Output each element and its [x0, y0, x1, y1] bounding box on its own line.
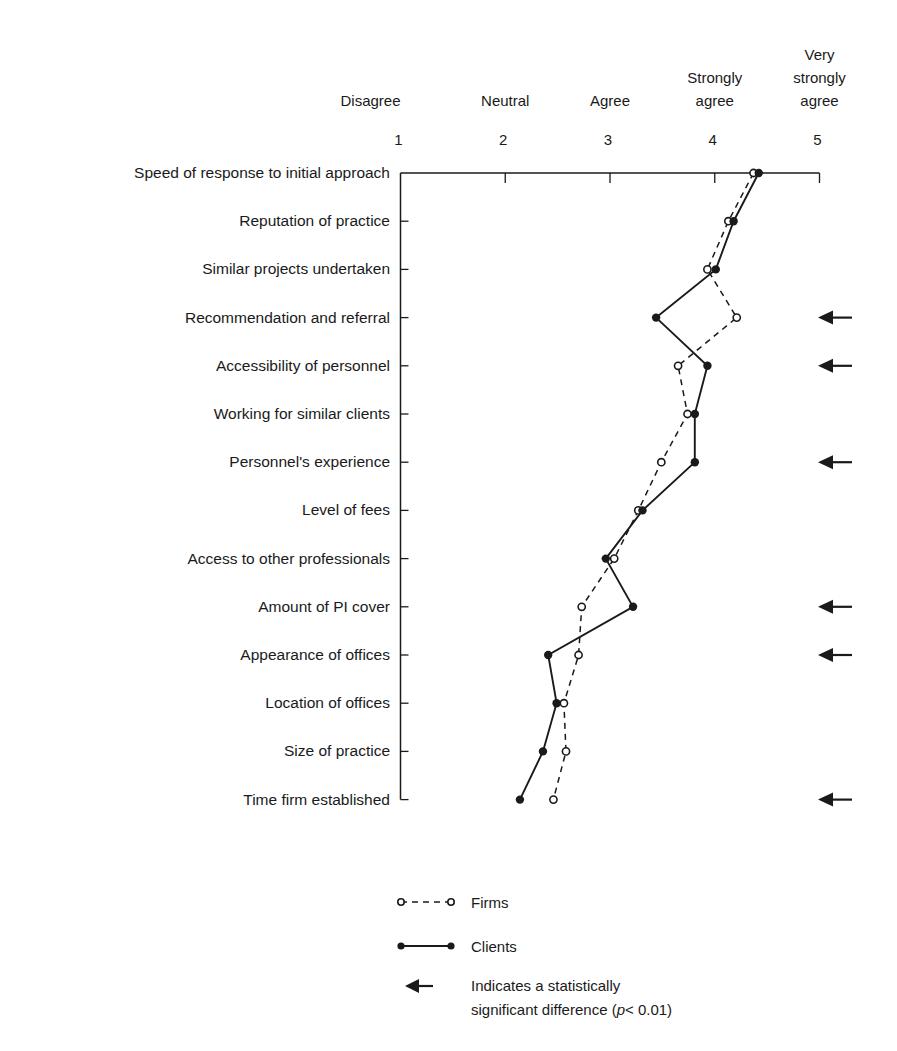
x-descriptor-label: Agree: [590, 92, 630, 109]
data-point-clients: [638, 506, 646, 514]
category-label: Access to other professionals: [188, 550, 391, 567]
axes: [401, 173, 820, 800]
significance-arrow-icon: [818, 648, 852, 662]
category-label: Time firm established: [243, 791, 390, 808]
category-labels: Speed of response to initial approachRep…: [134, 164, 390, 808]
data-point-clients: [691, 458, 699, 466]
legend-item-significance: Indicates a statistically significant di…: [395, 968, 672, 1022]
x-descriptor-label: Strongly: [687, 69, 743, 86]
data-point-firms: [562, 748, 569, 755]
x-tick-label: 5: [813, 131, 821, 148]
category-label: Working for similar clients: [214, 405, 391, 422]
significance-arrows: [818, 311, 852, 807]
data-point-firms: [611, 555, 618, 562]
clients-line-filled-circle-icon: [395, 936, 457, 956]
data-point-firms: [578, 603, 585, 610]
data-point-firms: [658, 459, 665, 466]
significance-arrow-icon: [818, 359, 852, 373]
legend-item-firms: Firms: [395, 880, 672, 924]
data-point-clients: [703, 362, 711, 370]
significance-arrow-icon: [818, 793, 852, 807]
data-point-firms: [733, 314, 740, 321]
category-label: Personnel's experience: [229, 453, 390, 470]
category-label: Location of offices: [265, 694, 390, 711]
x-tick-label: 3: [604, 131, 612, 148]
legend-label-firms: Firms: [471, 894, 509, 911]
data-point-firms: [550, 796, 557, 803]
x-tick-label: 4: [709, 131, 717, 148]
data-point-clients: [629, 603, 637, 611]
x-axis-tick-labels: 12345: [394, 131, 821, 148]
x-descriptor-label: Neutral: [481, 92, 529, 109]
x-tick-label: 1: [394, 131, 402, 148]
significance-arrow-icon: [818, 455, 852, 469]
category-label: Similar projects undertaken: [202, 260, 390, 277]
data-point-firms: [704, 266, 711, 273]
legend-significance-line2: significant difference (p< 0.01): [471, 998, 672, 1022]
category-label: Level of fees: [302, 501, 390, 518]
significance-arrow-icon: [818, 311, 852, 325]
data-point-clients: [544, 651, 552, 659]
data-point-clients: [539, 747, 547, 755]
data-point-firms: [575, 651, 582, 658]
series-line-firms: [553, 173, 753, 800]
legend-label-clients: Clients: [471, 938, 517, 955]
series-firms: [550, 169, 757, 803]
category-label: Speed of response to initial approach: [134, 164, 390, 181]
x-axis-descriptors: DisagreeNeutralAgreeStronglyagreeVerystr…: [340, 46, 846, 109]
category-label: Size of practice: [284, 742, 390, 759]
legend: Firms Clients Indicates a statistically …: [395, 880, 672, 1022]
data-point-firms: [684, 410, 691, 417]
data-point-clients: [691, 410, 699, 418]
series-clients: [516, 169, 763, 804]
data-point-firms: [560, 700, 567, 707]
legend-item-clients: Clients: [395, 924, 672, 968]
x-descriptor-label: Very: [804, 46, 835, 63]
x-tick-label: 2: [499, 131, 507, 148]
category-label: Accessibility of personnel: [216, 357, 390, 374]
data-point-clients: [755, 169, 763, 177]
chart-plot: DisagreeNeutralAgreeStronglyagreeVerystr…: [0, 0, 897, 870]
x-descriptor-label: Disagree: [340, 92, 400, 109]
category-label: Amount of PI cover: [258, 598, 390, 615]
category-label: Appearance of offices: [240, 646, 390, 663]
x-descriptor-label: agree: [800, 92, 838, 109]
legend-significance-line1: Indicates a statistically: [471, 974, 672, 998]
data-point-clients: [602, 554, 610, 562]
data-point-clients: [712, 265, 720, 273]
category-label: Reputation of practice: [239, 212, 390, 229]
data-point-clients: [729, 217, 737, 225]
data-point-clients: [552, 699, 560, 707]
data-point-firms: [674, 362, 681, 369]
data-point-clients: [516, 795, 524, 803]
x-descriptor-label: strongly: [793, 69, 846, 86]
significance-arrow-icon: [818, 600, 852, 614]
category-label: Recommendation and referral: [185, 309, 390, 326]
firms-line-open-circle-icon: [395, 892, 457, 912]
left-arrow-icon: [395, 976, 457, 996]
data-point-clients: [652, 313, 660, 321]
x-descriptor-label: agree: [696, 92, 734, 109]
